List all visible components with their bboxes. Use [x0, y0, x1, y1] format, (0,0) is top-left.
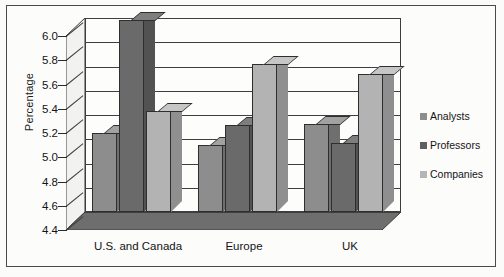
bar-companies-europe [252, 64, 277, 212]
legend-item-companies[interactable]: Companies [420, 168, 498, 180]
legend-label: Analysts [430, 110, 470, 122]
bar-face [225, 125, 250, 212]
x-tick-label: U.S. and Canada [82, 240, 194, 252]
bar-face [331, 143, 356, 212]
y-tick-mark [58, 85, 67, 86]
bar-professors-uk [331, 143, 356, 212]
plot-area [66, 18, 401, 230]
legend-item-analysts[interactable]: Analysts [420, 110, 498, 122]
y-axis-ticks: 6.05.85.65.45.25.04.84.64.4 [22, 0, 58, 277]
x-tick-label: UK [294, 240, 406, 252]
y-tick-mark [58, 109, 67, 110]
y-tick-mark [58, 206, 67, 207]
bar-analysts-u-s-and-canada [92, 133, 117, 212]
bar-face [358, 74, 383, 212]
bar-analysts-europe [198, 145, 223, 212]
legend-item-professors[interactable]: Professors [420, 139, 498, 151]
bar-face [198, 145, 223, 212]
y-tick-mark [58, 133, 67, 134]
y-tick-mark [58, 157, 67, 158]
bar-face [304, 124, 329, 213]
bar-face [92, 133, 117, 212]
bar-side [383, 74, 394, 212]
y-tick-mark [58, 36, 67, 37]
y-tick-label: 6.0 [28, 31, 58, 41]
x-tick-label: Europe [188, 240, 300, 252]
y-tick-label: 4.6 [28, 201, 58, 211]
gridline [85, 212, 401, 213]
bar-side [277, 64, 288, 212]
y-tick-label: 5.6 [28, 80, 58, 90]
chart-figure: Percentage 6.05.85.65.45.25.04.84.64.4 U… [0, 0, 504, 277]
professors-swatch [420, 142, 427, 149]
y-tick-mark [58, 230, 67, 231]
chart-legend: AnalystsProfessorsCompanies [420, 110, 498, 197]
legend-label: Companies [430, 168, 483, 180]
y-tick-label: 5.4 [28, 104, 58, 114]
bar-face [252, 64, 277, 212]
bar-companies-u-s-and-canada [146, 111, 171, 212]
bar-face [119, 20, 144, 212]
bar-professors-u-s-and-canada [119, 20, 144, 212]
legend-label: Professors [430, 139, 480, 151]
y-tick-mark [58, 60, 67, 61]
y-tick-label: 5.2 [28, 128, 58, 138]
y-tick-label: 4.4 [28, 225, 58, 235]
bar-professors-europe [225, 125, 250, 212]
y-tick-mark [58, 182, 67, 183]
bar-side [171, 111, 182, 212]
bar-companies-uk [358, 74, 383, 212]
bar-analysts-uk [304, 124, 329, 213]
y-tick-label: 5.0 [28, 152, 58, 162]
y-tick-label: 5.8 [28, 55, 58, 65]
bar-face [146, 111, 171, 212]
companies-swatch [420, 171, 427, 178]
y-tick-label: 4.8 [28, 177, 58, 187]
analysts-swatch [420, 113, 427, 120]
